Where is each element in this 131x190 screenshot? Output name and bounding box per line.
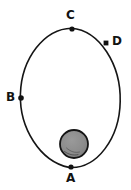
orbit-point-label-d: D <box>112 35 122 47</box>
central-body-circle <box>60 130 88 158</box>
orbit-diagram-canvas <box>0 0 131 190</box>
orbit-diagram: A B C D <box>0 0 131 190</box>
orbit-point-marker-c[interactable] <box>69 26 74 31</box>
orbit-point-label-b: B <box>6 91 15 103</box>
orbit-point-marker-d[interactable] <box>104 41 109 46</box>
orbit-point-label-a: A <box>66 172 75 184</box>
orbit-point-label-c: C <box>66 9 75 21</box>
orbit-point-marker-b[interactable] <box>18 95 24 101</box>
central-body <box>60 130 88 158</box>
orbit-point-marker-a[interactable] <box>68 164 73 169</box>
